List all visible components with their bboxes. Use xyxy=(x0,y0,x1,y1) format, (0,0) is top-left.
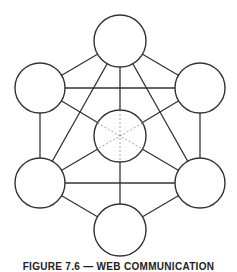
figure-caption: FIGURE 7.6 — WEB COMMUNICATION xyxy=(0,261,237,272)
node-lower-left xyxy=(15,158,65,208)
node-bottom xyxy=(94,204,146,256)
node-lower-right xyxy=(175,158,225,208)
node-top xyxy=(94,15,146,67)
node-upper-left xyxy=(15,63,65,113)
node-upper-right xyxy=(175,63,225,113)
web-communication-diagram xyxy=(0,0,237,272)
